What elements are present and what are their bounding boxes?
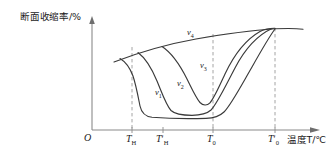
y-axis-arrow [89,16,95,24]
annotation-v4: v4 [187,28,194,39]
y-axis-label: 断面收缩率/% [20,12,81,22]
curve-v3 [162,28,275,105]
curve-v2 [138,29,272,116]
annotation-v3: v3 [200,61,207,72]
annotation-v2: v2 [177,79,184,90]
xtick-TH-prime: TʹH [156,134,168,147]
x-axis-label: 温度T/℃ [287,135,326,145]
chart-canvas [0,0,332,155]
axes [89,16,320,133]
xtick-TH: TH [126,134,136,147]
x-axis-arrow [310,127,320,133]
xtick-T0: T0 [207,134,216,147]
annotation-v1: v1 [155,88,162,99]
ductility-trough-chart: 断面收缩率/% O TH TʹH T0 Tʹ0 温度T/℃ v1 v2 v3 v… [0,0,332,155]
origin-label: O [84,133,91,143]
xtick-T0-prime: Tʹ0 [268,134,279,147]
curve-v1 [120,29,275,119]
dashed-guides [132,28,275,130]
